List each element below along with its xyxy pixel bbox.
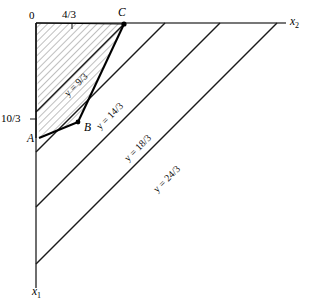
vertex-point-c bbox=[121, 21, 126, 26]
tick-label-x2-4-3: 4/3 bbox=[62, 9, 76, 20]
figure-canvas: 0 4/3 10/3 C B A x2 x1 y = 9/3 y = 14/3 … bbox=[0, 0, 315, 308]
linear-programming-plot bbox=[0, 0, 315, 308]
axis-label-x1-subscript: 1 bbox=[37, 291, 41, 300]
axis-label-x2-subscript: 2 bbox=[295, 21, 299, 30]
tick-label-x1-10-3: 10/3 bbox=[1, 113, 21, 124]
axis-label-x2: x2 bbox=[290, 16, 299, 30]
vertex-label-a: A bbox=[27, 133, 34, 145]
vertex-label-b: B bbox=[84, 122, 91, 134]
origin-label: 0 bbox=[29, 10, 35, 21]
vertex-point-b bbox=[76, 120, 81, 125]
vertex-label-c: C bbox=[118, 7, 126, 19]
axis-label-x1: x1 bbox=[32, 286, 41, 300]
